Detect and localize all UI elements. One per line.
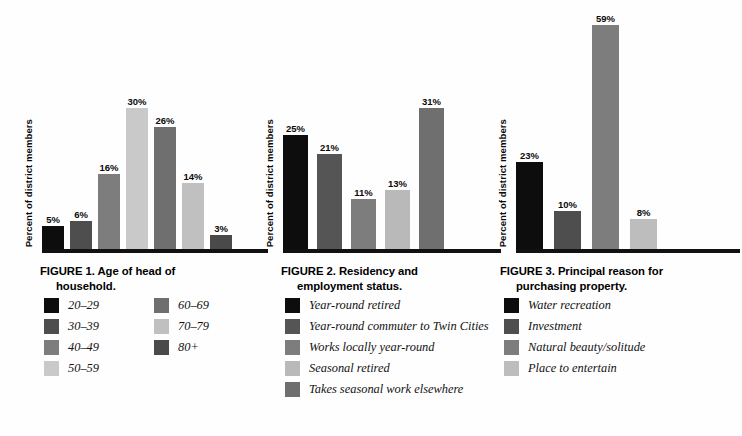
legend-swatch bbox=[154, 340, 169, 355]
bar-rect bbox=[554, 211, 581, 249]
bar-value-label: 3% bbox=[214, 223, 228, 234]
caption-line-1: FIGURE 1. Age of head of bbox=[40, 265, 175, 277]
figure-3-panel: Percent of district members 23%10%59%8% … bbox=[496, 0, 742, 436]
bar-rect bbox=[419, 108, 444, 249]
bar-value-label: 8% bbox=[637, 207, 651, 218]
bar-2: 10% bbox=[554, 10, 581, 249]
bar-5: 31% bbox=[419, 95, 444, 249]
legend-swatch bbox=[504, 319, 519, 334]
legend-item: Takes seasonal work elsewhere bbox=[285, 379, 489, 400]
legend-label: Investment bbox=[528, 320, 582, 333]
caption-line-2: purchasing property. bbox=[500, 279, 740, 294]
bar-value-label: 26% bbox=[155, 115, 174, 126]
legend-label: Place to entertain bbox=[528, 362, 617, 375]
legend-swatch bbox=[154, 319, 169, 334]
bar-rect bbox=[385, 190, 410, 249]
bar-rect bbox=[70, 221, 92, 249]
caption-line-1: FIGURE 2. Residency and bbox=[281, 265, 418, 277]
figure-1-caption: FIGURE 1. Age of head of household. bbox=[40, 264, 268, 293]
bar-value-label: 16% bbox=[99, 162, 118, 173]
legend-column: Water recreationInvestmentNatural beauty… bbox=[504, 295, 645, 379]
bar-value-label: 5% bbox=[46, 214, 60, 225]
legend-label: 30–39 bbox=[68, 320, 99, 333]
bar-value-label: 59% bbox=[596, 13, 615, 24]
bar-1: 25% bbox=[283, 95, 308, 249]
y-axis-label: Percent of district members bbox=[22, 119, 36, 247]
x-axis-baseline bbox=[516, 249, 740, 253]
legend-swatch bbox=[504, 361, 519, 376]
bar-rect bbox=[98, 174, 120, 249]
bar-value-label: 23% bbox=[520, 150, 539, 161]
bar-value-label: 14% bbox=[183, 171, 202, 182]
legend-swatch bbox=[285, 382, 300, 397]
bar-rect bbox=[154, 127, 176, 249]
bar-rect bbox=[210, 235, 232, 249]
legend-label: Takes seasonal work elsewhere bbox=[309, 383, 463, 396]
y-axis-label: Percent of district members bbox=[263, 119, 277, 247]
figure-3-caption: FIGURE 3. Principal reason for purchasin… bbox=[500, 264, 740, 293]
bar-2: 6% bbox=[70, 95, 92, 249]
figure-2-caption: FIGURE 2. Residency and employment statu… bbox=[281, 264, 501, 293]
bar-value-label: 11% bbox=[354, 187, 373, 198]
bar-rect bbox=[351, 199, 376, 249]
legend-item: Place to entertain bbox=[504, 358, 645, 379]
legend-label: 50–59 bbox=[68, 362, 99, 375]
legend-label: Natural beauty/solitude bbox=[528, 341, 645, 354]
legend-item: Investment bbox=[504, 316, 645, 337]
legend-label: 80+ bbox=[178, 341, 199, 354]
bar-value-label: 31% bbox=[422, 96, 441, 107]
bar-7: 3% bbox=[210, 95, 232, 249]
bar-6: 14% bbox=[182, 95, 204, 249]
legend-swatch bbox=[504, 340, 519, 355]
legend-item: 60–69 bbox=[154, 295, 209, 316]
figure-page: Percent of district members 5%6%16%30%26… bbox=[0, 0, 742, 436]
bar-3: 11% bbox=[351, 95, 376, 249]
figure-1-chart: Percent of district members 5%6%16%30%26… bbox=[22, 95, 270, 253]
bar-1: 5% bbox=[42, 95, 64, 249]
legend-swatch bbox=[44, 340, 59, 355]
bar-value-label: 30% bbox=[127, 96, 146, 107]
legend-label: 40–49 bbox=[68, 341, 99, 354]
bar-value-label: 6% bbox=[74, 209, 88, 220]
bar-4: 30% bbox=[126, 95, 148, 249]
bar-5: 26% bbox=[154, 95, 176, 249]
bar-rect bbox=[317, 154, 342, 249]
legend-label: Seasonal retired bbox=[309, 362, 390, 375]
legend-label: 70–79 bbox=[178, 320, 209, 333]
x-axis-baseline bbox=[42, 249, 268, 253]
legend-swatch bbox=[44, 319, 59, 334]
bar-value-label: 10% bbox=[558, 199, 577, 210]
legend-item: 80+ bbox=[154, 337, 209, 358]
plot-area: 23%10%59%8% bbox=[516, 10, 742, 253]
legend-item: 20–29 bbox=[44, 295, 99, 316]
legend-item: Works locally year-round bbox=[285, 337, 489, 358]
bar-1: 23% bbox=[516, 10, 543, 249]
legend-label: Year-round commuter to Twin Cities bbox=[309, 320, 489, 333]
bar-rect bbox=[126, 108, 148, 249]
legend-item: Water recreation bbox=[504, 295, 645, 316]
legend-label: 20–29 bbox=[68, 299, 99, 312]
y-axis-label: Percent of district members bbox=[496, 119, 510, 247]
bar-group: 25%21%11%13%31% bbox=[283, 95, 444, 249]
legend-item: 30–39 bbox=[44, 316, 99, 337]
legend-swatch bbox=[285, 361, 300, 376]
legend-column: Year-round retiredYear-round commuter to… bbox=[285, 295, 489, 400]
bar-2: 21% bbox=[317, 95, 342, 249]
bar-rect bbox=[283, 135, 308, 249]
legend-swatch bbox=[285, 340, 300, 355]
legend-item: Natural beauty/solitude bbox=[504, 337, 645, 358]
bar-rect bbox=[182, 183, 204, 249]
figure-3-chart: Percent of district members 23%10%59%8% bbox=[496, 10, 742, 253]
plot-area: 5%6%16%30%26%14%3% bbox=[42, 95, 270, 253]
bar-rect bbox=[630, 219, 657, 249]
bar-group: 23%10%59%8% bbox=[516, 10, 657, 249]
bar-group: 5%6%16%30%26%14%3% bbox=[42, 95, 232, 249]
bar-value-label: 21% bbox=[320, 142, 339, 153]
bar-rect bbox=[516, 162, 543, 249]
bar-value-label: 13% bbox=[388, 178, 407, 189]
bar-3: 59% bbox=[592, 10, 619, 249]
bar-rect bbox=[592, 25, 619, 249]
legend-swatch bbox=[285, 319, 300, 334]
bar-4: 13% bbox=[385, 95, 410, 249]
figure-1-panel: Percent of district members 5%6%16%30%26… bbox=[22, 0, 270, 436]
